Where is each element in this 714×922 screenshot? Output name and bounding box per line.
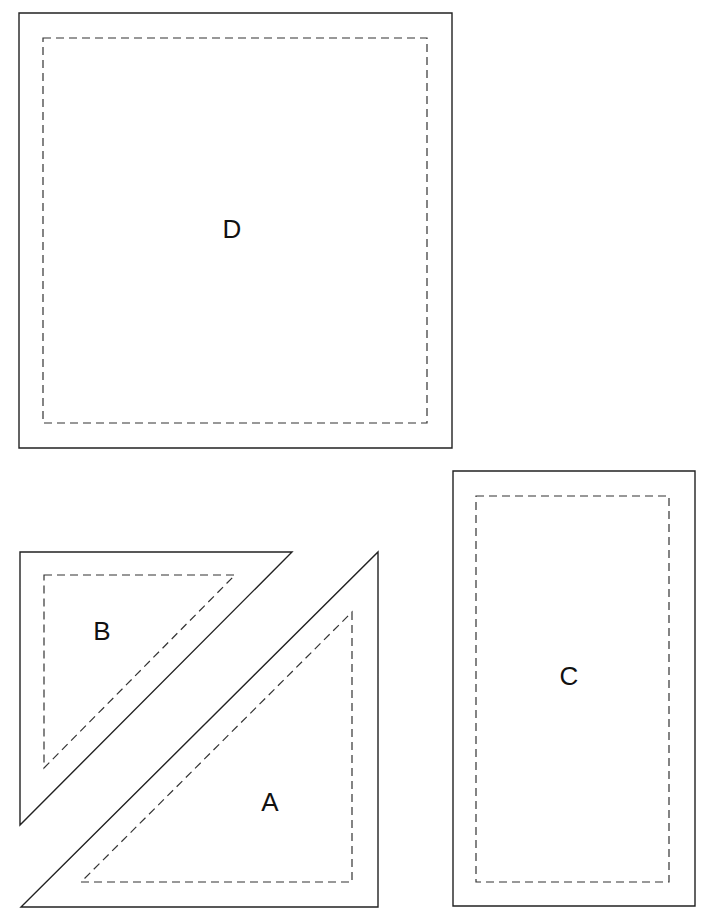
piece-label: B [93,616,110,646]
piece-b: B [20,552,292,825]
seam-line [44,575,235,768]
piece-a: A [21,552,378,907]
piece-label: A [261,787,279,817]
piece-label: D [223,214,242,244]
cut-line [21,552,378,907]
piece-d: D [19,13,452,448]
cut-line [20,552,292,825]
pattern-template-diagram: D B A C [0,0,714,922]
seam-line [81,612,352,882]
piece-c: C [453,471,695,906]
piece-label: C [560,661,579,691]
